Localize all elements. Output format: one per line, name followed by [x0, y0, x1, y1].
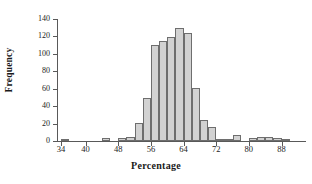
histogram-bar [135, 123, 143, 141]
histogram-bar [192, 88, 200, 141]
x-axis-title: Percentage [0, 160, 312, 171]
plot-area: 0204060801001201403440485664728088 [0, 0, 312, 184]
histogram-bar [233, 135, 241, 141]
x-axis-tick-label: 80 [239, 145, 259, 154]
x-axis-tick-label: 40 [76, 145, 96, 154]
histogram-bar [143, 98, 151, 141]
histogram-bar [167, 37, 175, 141]
histogram-bar [61, 139, 69, 141]
histogram-bar [257, 137, 265, 141]
x-axis-tick-label: 34 [51, 145, 71, 154]
histogram-bar [282, 139, 290, 141]
histogram-bar [126, 137, 134, 141]
histogram-bar [175, 28, 183, 141]
histogram-bar [273, 138, 281, 141]
bar-series [0, 0, 312, 142]
histogram-bar [249, 138, 257, 141]
x-axis-tick-label: 48 [108, 145, 128, 154]
histogram-bar [151, 45, 159, 141]
histogram-bar [159, 41, 167, 141]
histogram-chart: Frequency 020406080100120140344048566472… [0, 0, 312, 184]
histogram-bar [265, 137, 273, 141]
histogram-bar [200, 120, 208, 141]
histogram-bar [102, 138, 110, 141]
histogram-bar [118, 138, 126, 141]
x-axis-tick-label: 64 [174, 145, 194, 154]
x-axis-ticks: 3440485664728088 [0, 142, 312, 162]
x-axis-tick-label: 88 [272, 145, 292, 154]
x-axis-tick-label: 72 [206, 145, 226, 154]
histogram-bar [184, 33, 192, 141]
histogram-bar [224, 139, 232, 141]
histogram-bar [208, 127, 216, 141]
x-axis-tick-label: 56 [141, 145, 161, 154]
histogram-bar [216, 139, 224, 141]
x-axis-title-text: Percentage [131, 160, 181, 171]
